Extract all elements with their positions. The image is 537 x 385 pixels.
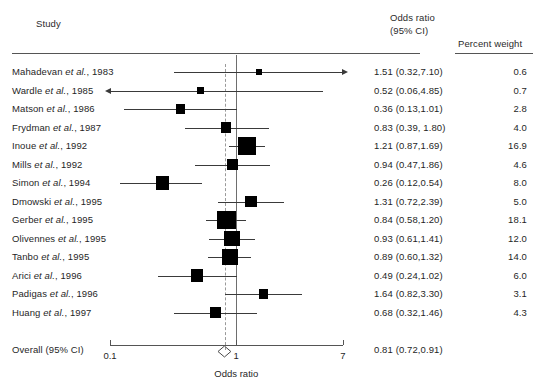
x-axis-tick <box>236 340 237 345</box>
summary-diamond <box>215 344 236 357</box>
odds-ratio-value: 0.94 (0.47,1.86) <box>374 159 443 170</box>
study-marker <box>210 307 221 318</box>
odds-ratio-value: 1.21 (0.87,1.69) <box>374 140 443 151</box>
percent-weight-value: 4.0 <box>455 122 527 133</box>
column-header-odds-ratio: Odds ratio <box>390 12 435 23</box>
percent-weight-value: 16.9 <box>455 140 527 151</box>
column-header-percent-weight: Percent weight <box>458 38 522 49</box>
odds-ratio-value: 1.51 (0.32,7.10) <box>374 66 443 77</box>
study-marker <box>245 196 256 207</box>
confidence-interval-line <box>195 165 270 166</box>
header-rule-left <box>12 53 420 54</box>
overall-label: Overall (95% CI) <box>12 344 84 355</box>
percent-weight-value: 0.6 <box>455 66 527 77</box>
percent-weight-value: 5.0 <box>455 196 527 207</box>
study-marker <box>156 176 169 189</box>
x-axis-tick <box>343 340 344 345</box>
study-label: Simon et al., 1994 <box>12 177 90 188</box>
study-marker <box>224 231 240 247</box>
percent-weight-value: 14.0 <box>455 251 527 262</box>
study-label: Huang et al., 1997 <box>12 307 91 318</box>
study-label: Wardle et al., 1985 <box>12 85 93 96</box>
odds-ratio-value: 0.93 (0.61,1.41) <box>374 233 443 244</box>
study-label: Mills et al., 1992 <box>12 159 82 170</box>
ci-arrow-right-icon <box>342 69 348 75</box>
confidence-interval-line <box>158 276 237 277</box>
odds-ratio-value: 0.83 (0.39, 1.80) <box>374 122 445 133</box>
plot-area: 0.117Odds ratio <box>0 0 537 385</box>
x-axis-tick-label: 7 <box>318 350 368 361</box>
x-axis-line <box>110 345 343 346</box>
confidence-interval-line <box>120 183 202 184</box>
percent-weight-value: 4.3 <box>455 307 527 318</box>
odds-ratio-value: 1.64 (0.82,3.30) <box>374 288 443 299</box>
pooled-reference-line <box>225 64 226 350</box>
ci-arrow-left-icon <box>105 88 111 94</box>
confidence-interval-line <box>208 257 251 258</box>
odds-ratio-value: 1.31 (0.72,2.39) <box>374 196 443 207</box>
column-header-odds-ratio-ci: (95% CI) <box>390 25 428 36</box>
study-label: Olivennes et al., 1995 <box>12 233 106 244</box>
study-marker <box>176 104 185 113</box>
odds-ratio-value: 0.49 (0.24,1.02) <box>374 270 443 281</box>
confidence-interval-line <box>225 294 301 295</box>
percent-weight-value: 6.0 <box>455 270 527 281</box>
percent-weight-value: 4.6 <box>455 159 527 170</box>
study-label: Dmowski et al., 1995 <box>12 196 102 207</box>
confidence-interval-line <box>185 128 269 129</box>
study-marker <box>221 122 232 133</box>
percent-weight-value: 8.0 <box>455 177 527 188</box>
odds-ratio-value: 0.89 (0.60,1.32) <box>374 251 443 262</box>
study-marker <box>256 69 262 75</box>
confidence-interval-line <box>218 202 284 203</box>
study-label: Inoue et al., 1992 <box>12 140 87 151</box>
study-marker <box>217 211 235 229</box>
percent-weight-value: 3.1 <box>455 288 527 299</box>
study-marker <box>191 269 203 281</box>
percent-weight-value: 12.0 <box>455 233 527 244</box>
x-axis-tick <box>110 340 111 345</box>
study-label: Matson et al., 1986 <box>12 103 95 114</box>
study-label: Frydman et al., 1987 <box>12 122 101 133</box>
odds-ratio-value: 0.36 (0.13,1.01) <box>374 103 443 114</box>
forest-plot-figure: Study Odds ratio (95% CI) Percent weight… <box>0 0 537 385</box>
column-header-study: Study <box>36 18 61 29</box>
study-marker <box>227 159 238 170</box>
percent-weight-value: 0.7 <box>455 85 527 96</box>
x-axis-title: Odds ratio <box>176 368 296 379</box>
study-label: Arici et al., 1996 <box>12 270 82 281</box>
study-marker <box>222 249 239 266</box>
x-axis-tick-label: 1 <box>211 350 261 361</box>
header-rule-right <box>455 53 533 54</box>
percent-weight-value: 2.8 <box>455 103 527 114</box>
confidence-interval-line <box>229 146 265 147</box>
confidence-interval-line <box>174 72 343 73</box>
percent-weight-value: 18.1 <box>455 214 527 225</box>
confidence-interval-line <box>124 109 236 110</box>
study-label: Mahadevan et al., 1983 <box>12 66 114 77</box>
study-label: Gerber et al., 1995 <box>12 214 93 225</box>
odds-ratio-value: 0.52 (0.06,4.85) <box>374 85 443 96</box>
study-marker <box>238 137 256 155</box>
study-label: Padigas et al., 1996 <box>12 288 98 299</box>
study-marker <box>259 289 269 299</box>
confidence-interval-line <box>209 239 255 240</box>
odds-ratio-value: 0.84 (0.58,1.20) <box>374 214 443 225</box>
study-marker <box>197 87 204 94</box>
odds-ratio-value: 0.26 (0.12,0.54) <box>374 177 443 188</box>
study-label: Tanbo et al., 1995 <box>12 251 89 262</box>
overall-odds-ratio-value: 0.81 (0.72,0.91) <box>374 344 443 355</box>
confidence-interval-line <box>174 313 257 314</box>
confidence-interval-line <box>110 91 323 92</box>
null-reference-line <box>236 55 237 345</box>
odds-ratio-value: 0.68 (0.32,1.46) <box>374 307 443 318</box>
confidence-interval-line <box>206 220 246 221</box>
x-axis-tick-label: 0.1 <box>85 350 135 361</box>
